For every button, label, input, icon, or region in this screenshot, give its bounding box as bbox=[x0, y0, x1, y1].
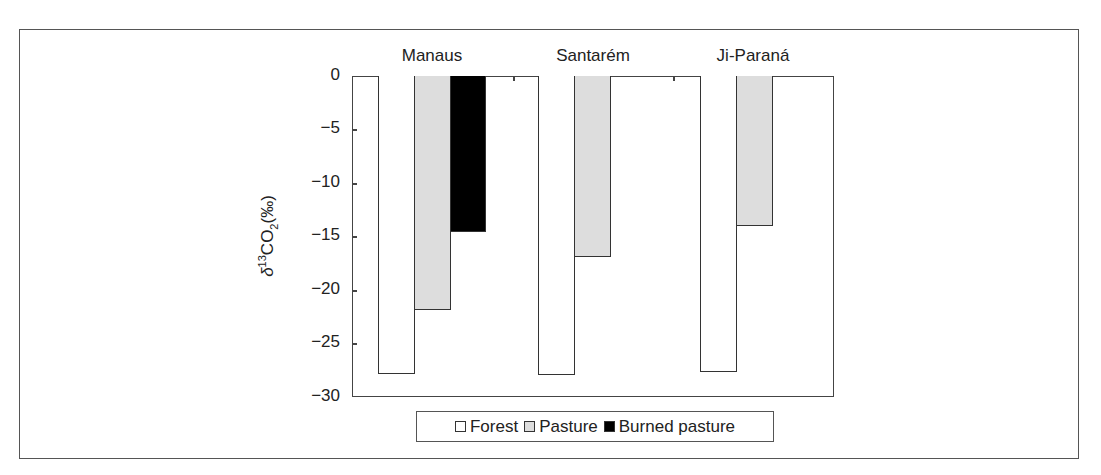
forest-swatch-icon bbox=[455, 421, 466, 432]
legend: Forest Pasture Burned pasture bbox=[416, 411, 774, 442]
group-label-manaus: Manaus bbox=[352, 46, 512, 66]
legend-item-burned-pasture: Burned pasture bbox=[604, 417, 735, 437]
bar-santarem-pasture bbox=[574, 76, 611, 257]
legend-item-forest: Forest bbox=[455, 417, 518, 437]
x-tickmark bbox=[513, 76, 515, 81]
y-tick: −25 bbox=[280, 332, 340, 352]
y-axis-label: δ13CO2(‰) bbox=[256, 195, 279, 277]
bar-ji-parana-pasture bbox=[736, 76, 773, 226]
bar-manaus-forest bbox=[378, 76, 415, 374]
y-tickmark bbox=[352, 129, 357, 131]
x-tickmark bbox=[673, 76, 675, 81]
pasture-swatch-icon bbox=[524, 421, 535, 432]
legend-item-pasture: Pasture bbox=[524, 417, 598, 437]
y-tick: −10 bbox=[280, 172, 340, 192]
bar-manaus-burned-pasture bbox=[450, 76, 486, 232]
y-tick: −30 bbox=[280, 386, 340, 406]
y-tickmark bbox=[352, 183, 357, 185]
y-tick: −15 bbox=[280, 225, 340, 245]
bar-manaus-pasture bbox=[414, 76, 451, 310]
group-label-ji-parana: Ji-Paraná bbox=[673, 46, 833, 66]
bar-ji-parana-forest bbox=[700, 76, 737, 372]
bar-santarem-forest bbox=[538, 76, 575, 375]
group-label-santarem: Santarém bbox=[513, 46, 673, 66]
y-tick: −5 bbox=[280, 118, 340, 138]
y-tick: 0 bbox=[280, 65, 340, 85]
y-tickmark bbox=[352, 343, 357, 345]
y-tickmark bbox=[352, 290, 357, 292]
y-tickmark bbox=[352, 236, 357, 238]
y-tick: −20 bbox=[280, 279, 340, 299]
burned-pasture-swatch-icon bbox=[604, 421, 615, 432]
